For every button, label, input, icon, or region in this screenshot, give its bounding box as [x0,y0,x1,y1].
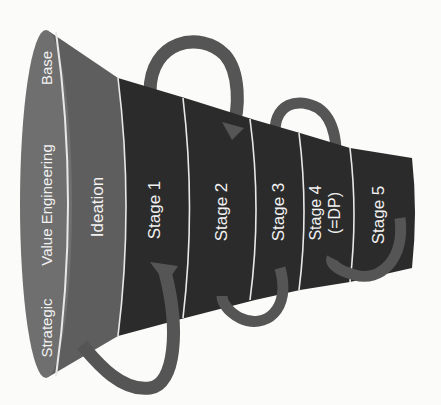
label-strategic: Strategic [38,298,55,358]
label-stage-3: Stage 3 [269,183,288,242]
label-stage-4: Stage 4 [307,185,324,240]
label-base: Base [38,51,55,85]
label-stage-1: Stage 1 [145,181,164,240]
label-stage-2: Stage 2 [212,183,231,242]
label-value-engineering: Value Engineering [38,144,55,265]
label-ideation: Ideation [88,177,107,238]
label-stage-4-sublabel: (=DP) [326,192,343,234]
label-stage-5: Stage 5 [369,186,388,245]
funnel-diagram: Strategic Value Engineering Base Ideatio… [0,0,441,405]
